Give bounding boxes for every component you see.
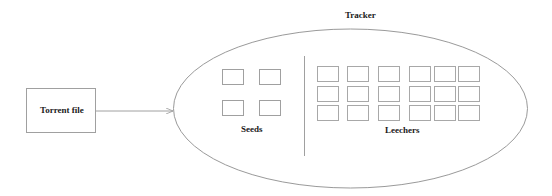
- leecher-box: [410, 87, 431, 102]
- leecher-box: [348, 106, 369, 121]
- seed-box: [223, 101, 244, 116]
- diagram-canvas: [0, 0, 552, 196]
- tracker-label: Tracker: [345, 10, 376, 20]
- leechers-group: [318, 67, 480, 121]
- leecher-box: [379, 106, 400, 121]
- leecher-box: [435, 67, 456, 82]
- leechers-label: Leechers: [385, 125, 419, 135]
- seeds-group: [223, 70, 281, 116]
- leecher-box: [459, 106, 480, 121]
- leecher-box: [348, 87, 369, 102]
- leecher-box: [348, 67, 369, 82]
- leecher-box: [379, 87, 400, 102]
- seed-box: [260, 101, 281, 116]
- leecher-box: [318, 87, 339, 102]
- leecher-box: [459, 67, 480, 82]
- leecher-box: [318, 67, 339, 82]
- seed-box: [260, 70, 281, 85]
- seeds-label: Seeds: [241, 124, 263, 134]
- leecher-box: [410, 106, 431, 121]
- leecher-box: [435, 106, 456, 121]
- leecher-box: [459, 87, 480, 102]
- leecher-box: [410, 67, 431, 82]
- leecher-box: [435, 87, 456, 102]
- torrent-file-label: Torrent file: [40, 105, 84, 115]
- leecher-box: [379, 67, 400, 82]
- leecher-box: [318, 106, 339, 121]
- seed-box: [223, 70, 244, 85]
- tracker-ellipse: [174, 29, 528, 188]
